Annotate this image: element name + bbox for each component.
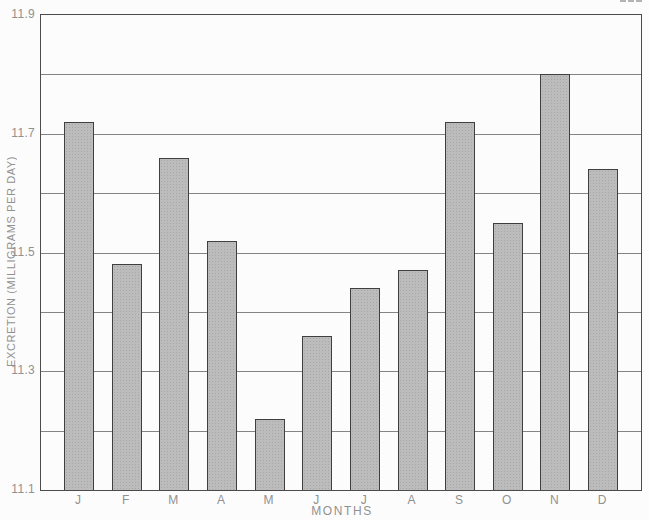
- y-axis-title-text: EXCRETION (MILLIGRAMS PER DAY): [5, 156, 17, 367]
- bar-2-f: [112, 264, 142, 490]
- y-tick-11-9: 11.9: [0, 6, 35, 22]
- x-tick-7-j: J: [352, 493, 376, 507]
- x-tick-2-f: F: [114, 493, 138, 507]
- bar-7-j: [350, 288, 380, 490]
- plot-area: [40, 14, 642, 491]
- x-tick-11-n: N: [542, 493, 566, 507]
- x-tick-8-a: A: [400, 493, 424, 507]
- artifact-dash: [636, 0, 642, 2]
- x-tick-3-m: M: [161, 493, 185, 507]
- y-tick-11-7: 11.7: [0, 125, 35, 141]
- x-tick-5-m: M: [257, 493, 281, 507]
- bar-4-a: [207, 241, 237, 490]
- y-tick-11-1: 11.1: [0, 481, 35, 497]
- bar-1-j: [64, 122, 94, 490]
- x-tick-4-a: A: [209, 493, 233, 507]
- y-tick-11-3: 11.3: [0, 362, 35, 378]
- x-tick-10-o: O: [495, 493, 519, 507]
- bar-10-o: [493, 223, 523, 490]
- y-tick-11-5: 11.5: [0, 244, 35, 260]
- bar-9-s: [445, 122, 475, 490]
- bar-chart-figure: EXCRETION (MILLIGRAMS PER DAY) MONTHS JF…: [0, 0, 649, 520]
- bar-11-n: [540, 74, 570, 490]
- artifact-dash: [628, 0, 634, 2]
- bar-8-a: [398, 270, 428, 490]
- x-tick-12-d: D: [590, 493, 614, 507]
- x-tick-1-j: J: [66, 493, 90, 507]
- cropped-page-number-artifact: [620, 0, 642, 3]
- artifact-dash: [620, 0, 626, 2]
- x-tick-6-j: J: [304, 493, 328, 507]
- bar-6-j: [302, 336, 332, 490]
- x-tick-9-s: S: [447, 493, 471, 507]
- bar-12-d: [588, 169, 618, 490]
- bar-3-m: [159, 158, 189, 491]
- bar-5-m: [255, 419, 285, 490]
- y-axis-title: EXCRETION (MILLIGRAMS PER DAY): [1, 138, 21, 384]
